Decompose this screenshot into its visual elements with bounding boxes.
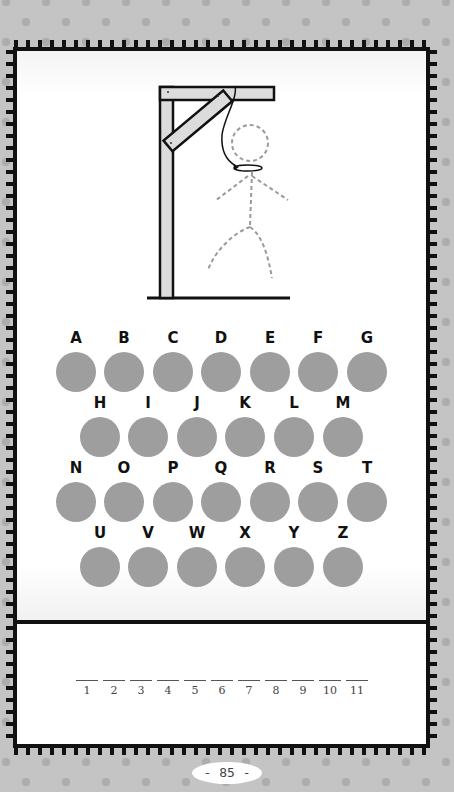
answer-slot-3[interactable]: 3 <box>130 680 152 697</box>
letter-label: B <box>102 328 146 348</box>
slot-number: 6 <box>211 684 233 697</box>
letter-key-y[interactable]: Y <box>272 523 316 587</box>
letter-label: T <box>345 458 389 478</box>
letter-key-w[interactable]: W <box>175 523 219 587</box>
blank-line <box>319 680 341 681</box>
answer-slot-8[interactable]: 8 <box>265 680 287 697</box>
letter-key-n[interactable]: N <box>54 458 98 522</box>
letter-label: M <box>321 393 365 413</box>
letter-bubble[interactable] <box>225 547 265 587</box>
letter-label: C <box>151 328 195 348</box>
slot-number: 8 <box>265 684 287 697</box>
letter-key-g[interactable]: G <box>345 328 389 392</box>
letter-bubble[interactable] <box>56 482 96 522</box>
answer-blanks: 1 2 3 4 5 6 7 8 9 10 11 <box>76 680 368 697</box>
letter-key-f[interactable]: F <box>296 328 340 392</box>
blank-line <box>157 680 179 681</box>
letter-bubble[interactable] <box>177 547 217 587</box>
letter-key-p[interactable]: P <box>151 458 195 522</box>
letter-key-j[interactable]: J <box>175 393 219 457</box>
answer-slot-5[interactable]: 5 <box>184 680 206 697</box>
slot-number: 3 <box>130 684 152 697</box>
letter-bubble[interactable] <box>250 352 290 392</box>
letter-bubble[interactable] <box>128 417 168 457</box>
letter-label: P <box>151 458 195 478</box>
letter-bubble[interactable] <box>323 547 363 587</box>
letter-bubble[interactable] <box>177 417 217 457</box>
blank-line <box>238 680 260 681</box>
answer-slot-6[interactable]: 6 <box>211 680 233 697</box>
letter-bubble[interactable] <box>323 417 363 457</box>
slot-number: 10 <box>319 684 341 697</box>
letter-bubble[interactable] <box>153 352 193 392</box>
letter-label: I <box>126 393 170 413</box>
letter-bubble[interactable] <box>225 417 265 457</box>
letter-key-t[interactable]: T <box>345 458 389 522</box>
letter-key-q[interactable]: Q <box>199 458 243 522</box>
letter-key-z[interactable]: Z <box>321 523 365 587</box>
letter-label: X <box>223 523 267 543</box>
answer-slot-2[interactable]: 2 <box>103 680 125 697</box>
letter-bubble[interactable] <box>298 482 338 522</box>
letter-key-l[interactable]: L <box>272 393 316 457</box>
letter-key-v[interactable]: V <box>126 523 170 587</box>
answer-slot-9[interactable]: 9 <box>292 680 314 697</box>
blank-line <box>184 680 206 681</box>
letter-label: L <box>272 393 316 413</box>
letter-label: Y <box>272 523 316 543</box>
letter-bubble[interactable] <box>274 417 314 457</box>
letter-key-i[interactable]: I <box>126 393 170 457</box>
letter-label: K <box>223 393 267 413</box>
letter-bubble[interactable] <box>201 482 241 522</box>
letter-label: F <box>296 328 340 348</box>
letter-label: S <box>296 458 340 478</box>
letter-bubble[interactable] <box>56 352 96 392</box>
letter-label: H <box>78 393 122 413</box>
blank-line <box>130 680 152 681</box>
page-number: - 85 - <box>192 762 262 784</box>
answer-slot-7[interactable]: 7 <box>238 680 260 697</box>
letter-key-c[interactable]: C <box>151 328 195 392</box>
letter-bubble[interactable] <box>250 482 290 522</box>
answer-slot-1[interactable]: 1 <box>76 680 98 697</box>
letter-key-b[interactable]: B <box>102 328 146 392</box>
letter-key-m[interactable]: M <box>321 393 365 457</box>
letter-key-h[interactable]: H <box>78 393 122 457</box>
letter-label: V <box>126 523 170 543</box>
letter-bubble[interactable] <box>80 417 120 457</box>
slot-number: 1 <box>76 684 98 697</box>
letter-bubble[interactable] <box>298 352 338 392</box>
slot-number: 11 <box>346 684 368 697</box>
letter-key-u[interactable]: U <box>78 523 122 587</box>
letter-label: R <box>248 458 292 478</box>
letter-key-d[interactable]: D <box>199 328 243 392</box>
letter-bubble[interactable] <box>201 352 241 392</box>
letter-label: E <box>248 328 292 348</box>
letter-label: U <box>78 523 122 543</box>
slot-number: 4 <box>157 684 179 697</box>
blank-line <box>265 680 287 681</box>
letter-bubble[interactable] <box>347 352 387 392</box>
answer-slot-10[interactable]: 10 <box>319 680 341 697</box>
letter-bubble[interactable] <box>128 547 168 587</box>
letter-key-a[interactable]: A <box>54 328 98 392</box>
letter-key-r[interactable]: R <box>248 458 292 522</box>
blank-line <box>292 680 314 681</box>
letter-key-k[interactable]: K <box>223 393 267 457</box>
letter-key-o[interactable]: O <box>102 458 146 522</box>
letter-bubble[interactable] <box>274 547 314 587</box>
letter-key-x[interactable]: X <box>223 523 267 587</box>
letter-key-e[interactable]: E <box>248 328 292 392</box>
blank-line <box>346 680 368 681</box>
letter-bubble[interactable] <box>104 352 144 392</box>
letter-label: A <box>54 328 98 348</box>
letter-bubble[interactable] <box>80 547 120 587</box>
letter-bubble[interactable] <box>347 482 387 522</box>
answer-slot-11[interactable]: 11 <box>346 680 368 697</box>
answer-slot-4[interactable]: 4 <box>157 680 179 697</box>
letter-label: W <box>175 523 219 543</box>
letter-bubble[interactable] <box>104 482 144 522</box>
letter-key-s[interactable]: S <box>296 458 340 522</box>
letter-bubble[interactable] <box>153 482 193 522</box>
letter-label: Z <box>321 523 365 543</box>
